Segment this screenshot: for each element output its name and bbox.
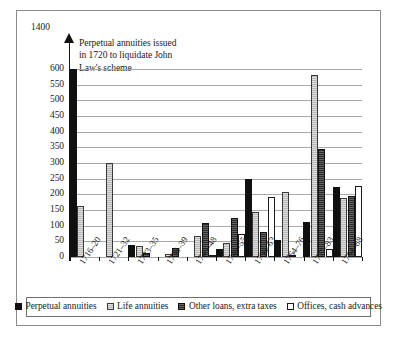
bar-group — [187, 69, 217, 257]
y-axis-tick-150: 150 — [30, 205, 64, 215]
y-axis-arrow-icon — [64, 33, 74, 43]
bar — [70, 69, 77, 257]
bar-group — [216, 69, 246, 257]
bar — [333, 187, 340, 257]
legend-item[interactable]: Perpetual annuities — [15, 302, 97, 311]
y-axis-tick-400: 400 — [30, 127, 64, 137]
legend-swatch-icon — [178, 303, 185, 310]
y-axis-tick-0: 0 — [30, 252, 64, 262]
legend-label: Perpetual annuities — [26, 302, 97, 311]
x-axis-tick — [99, 257, 100, 261]
y-axis-tick-300: 300 — [30, 158, 64, 168]
bar-group — [99, 69, 129, 257]
x-axis-tick — [158, 257, 159, 261]
legend-swatch-icon — [287, 303, 294, 310]
bar-group — [274, 69, 304, 257]
bar — [245, 179, 252, 257]
x-axis-tick — [304, 257, 305, 261]
legend-label: Other loans, extra taxes — [189, 302, 277, 311]
x-axis-tick — [187, 257, 188, 261]
y-axis-tick-450: 450 — [30, 111, 64, 121]
legend-item[interactable]: Other loans, extra taxes — [178, 302, 276, 311]
y-axis-tick-50: 50 — [30, 236, 64, 246]
y-axis-tick-600: 600 — [30, 64, 64, 74]
bar — [282, 192, 289, 257]
annotation-line-2: in 1720 to liquidate John — [79, 49, 239, 61]
y-axis-tick-350: 350 — [30, 142, 64, 152]
chart-legend: Perpetual annuitiesLife annuitiesOther l… — [26, 297, 371, 317]
x-axis-tick — [216, 257, 217, 261]
y-axis-tick-550: 550 — [30, 80, 64, 90]
legend-label: Offices, cash advances — [297, 302, 382, 311]
legend-item[interactable]: Offices, cash advances — [287, 302, 382, 311]
annotation-line-1: Perpetual annuities issued — [79, 37, 239, 49]
legend-item[interactable]: Life annuities — [107, 302, 169, 311]
bar-group — [245, 69, 275, 257]
y-axis-tick-100: 100 — [30, 221, 64, 231]
x-axis-tick — [70, 257, 71, 261]
chart-figure: 1400 Perpetual annuities issued in 1720 … — [16, 10, 381, 326]
bar — [311, 75, 318, 257]
x-axis-tick — [362, 257, 363, 261]
legend-label: Life annuities — [117, 302, 168, 311]
legend-swatch-icon — [15, 303, 22, 310]
bar-group — [333, 69, 363, 257]
y-axis-tick-250: 250 — [30, 174, 64, 184]
x-axis-tick — [245, 257, 246, 261]
x-axis-tick — [333, 257, 334, 261]
y-axis-top-label: 1400 — [31, 23, 50, 33]
bar — [106, 163, 113, 257]
x-axis-tick — [274, 257, 275, 261]
bar-group — [70, 69, 100, 257]
plot-area — [70, 69, 362, 257]
bar-group — [157, 69, 187, 257]
bar — [216, 249, 223, 257]
y-axis-tick-500: 500 — [30, 95, 64, 105]
bar — [128, 245, 135, 257]
legend-swatch-icon — [107, 303, 114, 310]
bar-group — [303, 69, 333, 257]
bar-group — [128, 69, 158, 257]
x-axis-tick — [128, 257, 129, 261]
y-axis-tick-200: 200 — [30, 189, 64, 199]
